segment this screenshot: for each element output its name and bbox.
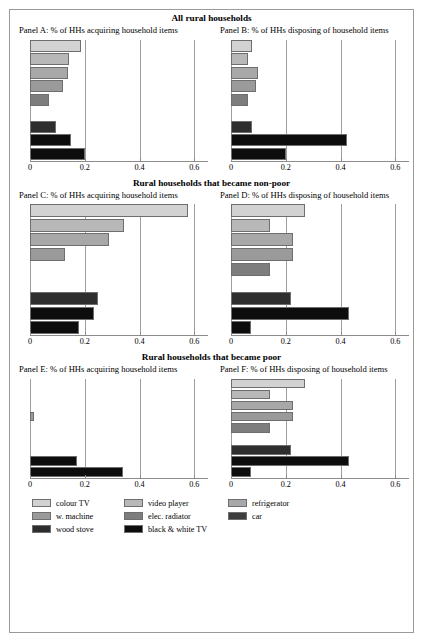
x-axis-ticks: 00.20.40.6 bbox=[30, 336, 208, 349]
tick-label: 0 bbox=[229, 163, 233, 172]
tickmark bbox=[231, 475, 232, 479]
panel-headings: Panel E: % of HHs acquiring household it… bbox=[10, 363, 413, 375]
chart-panel-f: 00.20.40.6 bbox=[212, 375, 413, 492]
bar bbox=[30, 121, 56, 133]
panel-block: Rural households that became non-poorPan… bbox=[10, 175, 413, 350]
figure-frame: All rural householdsPanel A: % of HHs ac… bbox=[9, 9, 414, 633]
plot-area bbox=[30, 40, 208, 162]
bar bbox=[30, 292, 98, 305]
legend-item[interactable]: elec. radiator bbox=[124, 512, 228, 521]
bar bbox=[30, 307, 94, 320]
legend-label: video player bbox=[148, 499, 189, 508]
legend-item[interactable]: black & white TV bbox=[124, 525, 228, 534]
tickmark bbox=[30, 475, 31, 479]
tick-label: 0.4 bbox=[134, 337, 144, 346]
bar bbox=[30, 412, 34, 422]
tick-label: 0.6 bbox=[390, 163, 400, 172]
x-axis-ticks: 00.20.40.6 bbox=[30, 479, 208, 492]
panel-heading-b: Panel B: % of HHs disposing of household… bbox=[212, 25, 413, 36]
tick-label: 0 bbox=[229, 337, 233, 346]
plot-area bbox=[30, 379, 208, 479]
legend-label: black & white TV bbox=[148, 525, 207, 534]
tickmark bbox=[85, 158, 86, 162]
tick-label: 0.6 bbox=[189, 480, 199, 489]
bar bbox=[231, 263, 270, 276]
bar bbox=[231, 321, 251, 334]
tickmark bbox=[286, 332, 287, 336]
bar bbox=[30, 80, 63, 92]
tickmark bbox=[231, 158, 232, 162]
legend-item[interactable]: car bbox=[228, 512, 272, 521]
tick-label: 0.2 bbox=[80, 480, 90, 489]
bar bbox=[231, 219, 270, 232]
block-title: Rural households that became non-poor bbox=[10, 175, 413, 189]
tick-label: 0.2 bbox=[80, 337, 90, 346]
legend-label: car bbox=[252, 512, 262, 521]
panel-headings: Panel C: % of HHs acquiring household it… bbox=[10, 189, 413, 201]
tickmark bbox=[286, 158, 287, 162]
block-title: All rural households bbox=[10, 10, 413, 24]
panel-block: All rural householdsPanel A: % of HHs ac… bbox=[10, 10, 413, 175]
gridline-0.6 bbox=[395, 40, 396, 162]
bar bbox=[231, 412, 293, 422]
bar bbox=[30, 233, 109, 246]
bar bbox=[231, 379, 305, 389]
legend-swatch-icon bbox=[124, 499, 143, 507]
bar bbox=[231, 467, 251, 477]
chart-panel-d: 00.20.40.6 bbox=[212, 200, 413, 349]
tick-label: 0.2 bbox=[80, 163, 90, 172]
legend-row: w. machineelec. radiatorcar bbox=[32, 510, 413, 523]
bar bbox=[231, 401, 293, 411]
tick-label: 0.6 bbox=[390, 480, 400, 489]
legend-item[interactable]: refrigerator bbox=[228, 499, 299, 508]
chart-legend: colour TVvideo playerrefrigeratorw. mach… bbox=[10, 492, 413, 536]
tickmark bbox=[194, 158, 195, 162]
gridline-0.4 bbox=[140, 204, 141, 336]
legend-swatch-icon bbox=[228, 512, 247, 520]
chart-panel-b: 00.20.40.6 bbox=[212, 36, 413, 175]
gridline-0.6 bbox=[194, 40, 195, 162]
tick-label: 0.4 bbox=[335, 163, 345, 172]
bar bbox=[231, 445, 291, 455]
tickmark bbox=[231, 332, 232, 336]
tickmark bbox=[341, 475, 342, 479]
legend-item[interactable]: w. machine bbox=[32, 512, 124, 521]
panel-block: Rural households that became poorPanel E… bbox=[10, 349, 413, 492]
tick-label: 0.2 bbox=[281, 480, 291, 489]
chart-panel-a: 00.20.40.6 bbox=[10, 36, 212, 175]
legend-item[interactable]: video player bbox=[124, 499, 228, 508]
tickmark bbox=[341, 158, 342, 162]
legend-swatch-icon bbox=[32, 499, 51, 507]
tick-label: 0 bbox=[28, 163, 32, 172]
chart-panel-c: 00.20.40.6 bbox=[10, 200, 212, 349]
block-title: Rural households that became poor bbox=[10, 349, 413, 363]
tick-label: 0 bbox=[28, 480, 32, 489]
chart-panel-e: 00.20.40.6 bbox=[10, 375, 212, 492]
bar bbox=[30, 94, 49, 106]
bar bbox=[231, 94, 248, 106]
charts-row: 00.20.40.600.20.40.6 bbox=[10, 200, 413, 349]
bar bbox=[231, 80, 256, 92]
bar bbox=[30, 148, 85, 160]
tickmark bbox=[140, 475, 141, 479]
bar bbox=[30, 456, 77, 466]
bar bbox=[231, 204, 305, 217]
tickmark bbox=[85, 475, 86, 479]
bar bbox=[231, 233, 293, 246]
panel-blocks: All rural householdsPanel A: % of HHs ac… bbox=[10, 10, 413, 492]
bar bbox=[231, 67, 258, 79]
legend-item[interactable]: colour TV bbox=[32, 499, 124, 508]
panel-headings: Panel A: % of HHs acquiring household it… bbox=[10, 24, 413, 36]
tick-label: 0.4 bbox=[134, 480, 144, 489]
tickmark bbox=[395, 332, 396, 336]
legend-label: wood stove bbox=[56, 525, 94, 534]
tickmark bbox=[395, 158, 396, 162]
bar bbox=[231, 121, 252, 133]
legend-swatch-icon bbox=[124, 512, 143, 520]
gridline-0.6 bbox=[395, 204, 396, 336]
plot-area bbox=[231, 379, 409, 479]
gridline-0.6 bbox=[194, 204, 195, 336]
legend-item[interactable]: wood stove bbox=[32, 525, 124, 534]
panel-heading-a: Panel A: % of HHs acquiring household it… bbox=[10, 25, 212, 36]
tickmark bbox=[395, 475, 396, 479]
